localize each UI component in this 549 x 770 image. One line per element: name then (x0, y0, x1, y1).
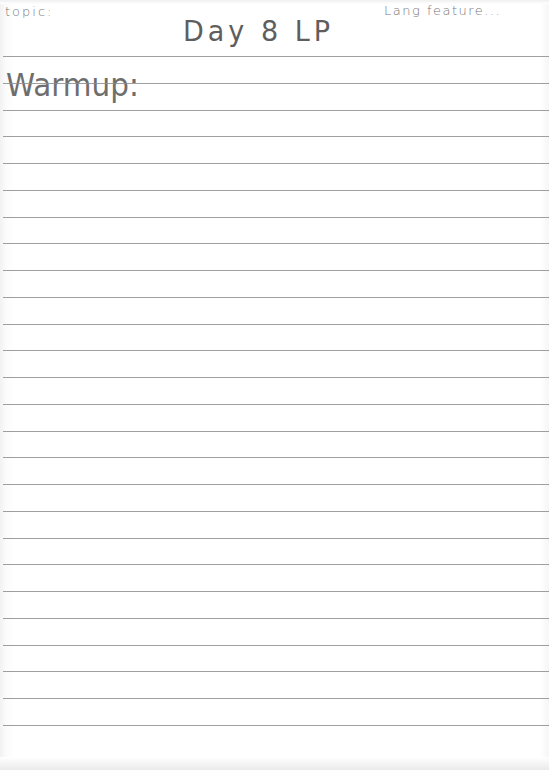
ruled-line (3, 190, 549, 191)
ruled-line (3, 217, 549, 218)
ruled-line (3, 324, 549, 325)
ruled-line (3, 163, 549, 164)
ruled-line (3, 431, 549, 432)
ruled-line (3, 484, 549, 485)
ruled-line (3, 404, 549, 405)
ruled-line (3, 457, 549, 458)
ruled-line (3, 350, 549, 351)
page-bottom-edge (0, 757, 549, 770)
ruled-line (3, 564, 549, 565)
ruled-line (3, 377, 549, 378)
ruled-line (3, 511, 549, 512)
corner-note: Lang feature... (384, 3, 501, 18)
ruled-line (3, 645, 549, 646)
ruled-line (3, 538, 549, 539)
ruled-line (3, 725, 549, 726)
ruled-line (3, 83, 549, 84)
ruled-line (3, 56, 549, 57)
ruled-line (3, 270, 549, 271)
topic-label: topic: (5, 4, 53, 19)
ruled-line (3, 243, 549, 244)
ruled-line (3, 110, 549, 111)
ruled-line (3, 297, 549, 298)
ruled-line (3, 618, 549, 619)
ruled-line (3, 671, 549, 672)
ruled-line (3, 698, 549, 699)
warmup-heading: Warmup: (6, 66, 139, 104)
notebook-page: topic: Day 8 LP Lang feature... Warmup: (0, 0, 549, 770)
page-title: Day 8 LP (183, 15, 334, 48)
ruled-line (3, 591, 549, 592)
ruled-line (3, 136, 549, 137)
